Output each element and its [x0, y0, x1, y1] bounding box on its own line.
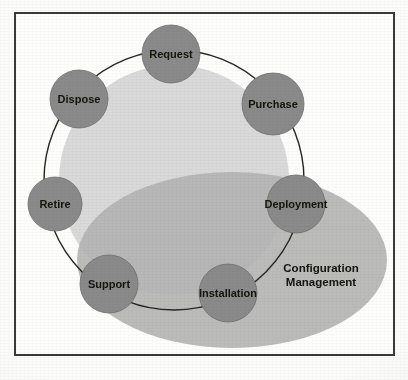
node-label-request: Request	[149, 48, 193, 60]
node-label-support: Support	[88, 278, 130, 290]
node-label-purchase: Purchase	[248, 98, 298, 110]
lifecycle-node-retire[interactable]: Retire	[28, 177, 82, 231]
lifecycle-node-installation[interactable]: Installation	[199, 264, 257, 322]
diagram-root: Request Purchase Deployment Installation	[0, 0, 408, 380]
lifecycle-node-purchase[interactable]: Purchase	[242, 73, 304, 135]
node-label-installation: Installation	[199, 287, 257, 299]
lifecycle-node-support[interactable]: Support	[80, 255, 138, 313]
node-label-retire: Retire	[39, 198, 70, 210]
diagram-canvas: Request Purchase Deployment Installation	[0, 0, 408, 380]
lifecycle-node-request[interactable]: Request	[142, 25, 200, 83]
lifecycle-node-dispose[interactable]: Dispose	[50, 70, 108, 128]
configuration-management-label-line1: Configuration	[283, 262, 358, 274]
node-label-deployment: Deployment	[265, 198, 328, 210]
configuration-management-label-line2: Management	[286, 276, 356, 288]
node-label-dispose: Dispose	[58, 93, 101, 105]
